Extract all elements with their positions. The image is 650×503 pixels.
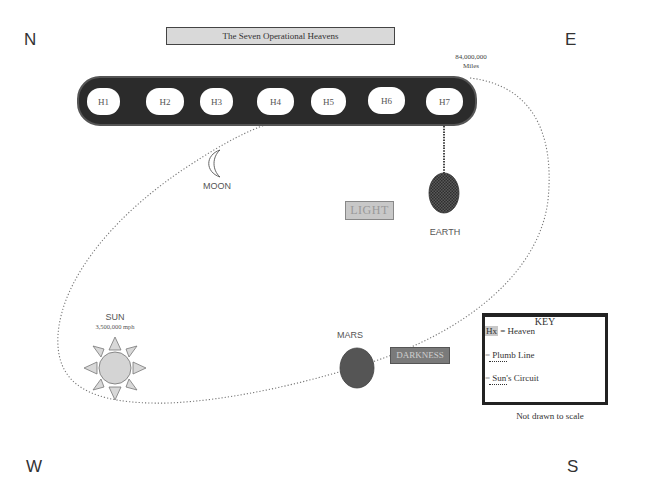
heaven-label-h3: H3 xyxy=(211,97,222,107)
distance-value: 84,000,000 xyxy=(441,53,501,62)
moon-icon xyxy=(209,150,220,177)
light-region-label: LIGHT xyxy=(345,201,394,220)
diagram-canvas: H1 H2 H3 H4 H5 H6 H7 xyxy=(0,0,650,503)
key-label-suns-circuit: Sun's Circuit xyxy=(492,373,538,383)
heaven-label-h6: H6 xyxy=(381,96,392,106)
key-symbol-plumb-line: = xyxy=(485,350,490,360)
key-label-heaven: = Heaven xyxy=(500,326,535,336)
key-item-heaven: Hx = Heaven xyxy=(485,326,535,336)
sun-label: SUN xyxy=(95,312,135,322)
earth-icon xyxy=(429,173,459,213)
scale-note: Not drawn to scale xyxy=(500,411,600,421)
key-symbol-suns-circuit: = xyxy=(485,373,490,383)
sun-icon xyxy=(84,337,146,400)
earth-label: EARTH xyxy=(420,227,470,237)
key-item-suns-circuit: = Sun's Circuit xyxy=(485,373,539,383)
heaven-label-h4: H4 xyxy=(270,97,281,107)
darkness-region-label: DARKNESS xyxy=(390,347,450,364)
sun-speed: 3,500,000 mph xyxy=(80,323,150,330)
mars-label: MARS xyxy=(328,330,372,340)
suns-circuit-sample-icon xyxy=(489,384,507,385)
distance-unit: Miles xyxy=(441,62,501,71)
key-legend: KEY Hx = Heaven = Plumb Line = Sun's Cir… xyxy=(482,313,608,405)
heaven-label-h7: H7 xyxy=(439,97,450,107)
heaven-label-h2: H2 xyxy=(160,97,171,107)
heaven-label-h5: H5 xyxy=(323,97,334,107)
sun-circuit-orbit xyxy=(58,78,549,403)
plumb-line-sample-icon xyxy=(489,361,507,362)
moon-label: MOON xyxy=(197,181,237,191)
key-label-plumb-line: Plumb Line xyxy=(492,350,534,360)
mars-icon xyxy=(340,348,374,388)
heaven-label-h1: H1 xyxy=(98,97,109,107)
key-item-plumb-line: = Plumb Line xyxy=(485,350,535,360)
distance-annotation: 84,000,000 Miles xyxy=(441,53,501,71)
key-symbol-heaven: Hx xyxy=(485,326,498,336)
